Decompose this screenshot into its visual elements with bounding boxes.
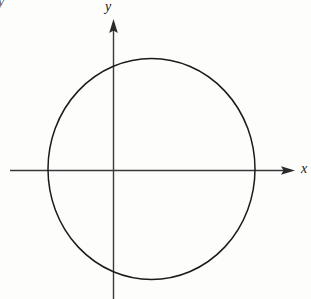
- coordinate-figure-canvas: [0, 0, 311, 299]
- figure-container: y x y: [0, 0, 311, 299]
- figure-background: [0, 0, 311, 299]
- x-axis-label: x: [301, 162, 307, 176]
- y-axis-label: y: [105, 0, 111, 14]
- corner-label-fragment: y: [0, 0, 4, 9]
